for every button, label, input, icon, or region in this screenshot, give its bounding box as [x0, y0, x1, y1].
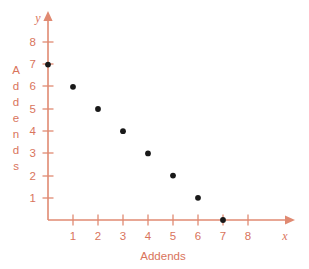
data-point: [45, 62, 51, 68]
y-tick-label: 1: [30, 192, 36, 204]
y-tick-label: 2: [30, 170, 36, 182]
scatter-plot-figure: 1 2 3 4 5 6 7 8 1 2 3 4 5 6 7 8 y x Adde…: [0, 0, 309, 269]
x-axis-variable-label: x: [281, 229, 288, 243]
x-tick-label: 3: [120, 230, 126, 242]
axes-group: [43, 11, 295, 225]
y-axis-title-letter: A: [12, 64, 20, 76]
x-tick-label: 4: [145, 230, 152, 242]
data-point: [170, 173, 176, 179]
data-point: [95, 106, 101, 112]
x-tick-labels-group: 1 2 3 4 5 6 7 8: [70, 230, 251, 242]
y-tick-labels-group: 1 2 3 4 5 6 7 8: [30, 36, 37, 204]
x-tick-label: 6: [195, 230, 201, 242]
data-point: [70, 84, 76, 90]
x-axis-arrow-icon: [285, 215, 295, 224]
x-tick-label: 5: [170, 230, 176, 242]
y-axis-title-letter: d: [13, 80, 19, 92]
plot-canvas: 1 2 3 4 5 6 7 8 1 2 3 4 5 6 7 8 y x Adde…: [0, 0, 309, 269]
y-axis-title-letter: n: [13, 128, 19, 140]
data-points-group: [45, 62, 226, 223]
x-tick-label: 1: [70, 230, 76, 242]
y-axis-title-letter: s: [13, 160, 19, 172]
y-axis-variable-label: y: [34, 11, 41, 25]
x-tick-label: 2: [95, 230, 101, 242]
data-point: [220, 217, 226, 223]
x-tick-label: 7: [220, 230, 226, 242]
y-tick-label: 8: [30, 36, 36, 48]
y-tick-label: 7: [30, 58, 36, 70]
x-tick-label: 8: [245, 230, 251, 242]
data-point: [120, 128, 126, 134]
data-point: [145, 151, 151, 157]
y-tick-label: 4: [30, 125, 37, 137]
y-axis-arrow-icon: [43, 11, 52, 21]
y-axis-title: A d d e n d s: [12, 64, 20, 172]
data-point: [195, 195, 201, 201]
y-tick-label: 3: [30, 147, 36, 159]
y-axis-title-letter: d: [13, 96, 19, 108]
y-axis-title-letter: e: [13, 112, 19, 124]
y-tick-label: 6: [30, 80, 36, 92]
x-axis-title: Addends: [140, 250, 186, 262]
y-tick-label: 5: [30, 103, 36, 115]
axis-variable-labels-group: y x: [34, 11, 288, 243]
y-axis-title-letter: d: [13, 144, 19, 156]
